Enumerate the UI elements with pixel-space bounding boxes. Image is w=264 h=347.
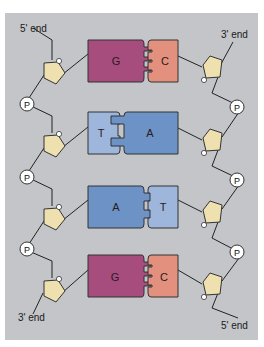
- base-label: C: [161, 55, 169, 67]
- sugar-pentagon-icon: [201, 201, 222, 228]
- base-label: G: [111, 271, 120, 283]
- phosphate-icon: P: [20, 170, 34, 184]
- left-phosphates: P P P: [20, 97, 34, 256]
- sugar-pentagon-icon: [44, 131, 65, 157]
- end-label-bottom-left: 3' end: [18, 312, 45, 323]
- phosphate-label: P: [234, 103, 240, 113]
- end-label-top-left: 5' end: [20, 23, 47, 34]
- sugar-pentagon-icon: [44, 58, 65, 84]
- base-pair-4: G C: [88, 255, 178, 297]
- sugar-pentagon-icon: [201, 129, 222, 156]
- base-pair-3: A T: [88, 186, 178, 228]
- left-sugars: [44, 58, 65, 302]
- guanine-block: [88, 255, 151, 297]
- end-label-bottom-right: 5' end: [221, 320, 248, 331]
- end-label-top-right: 3' end: [221, 29, 248, 40]
- adenine-block: [111, 112, 178, 154]
- sugar-pentagon-icon: [44, 276, 65, 302]
- phosphate-label: P: [24, 173, 30, 183]
- phosphate-icon: P: [230, 245, 244, 259]
- base-pair-2: T A: [88, 112, 178, 154]
- phosphate-label: P: [24, 245, 30, 255]
- base-label: G: [112, 55, 121, 67]
- base-label: C: [160, 271, 168, 283]
- base-label: T: [98, 127, 105, 139]
- sugar-pentagon-icon: [201, 56, 222, 83]
- phosphate-label: P: [24, 100, 30, 110]
- phosphate-label: P: [234, 176, 240, 186]
- phosphate-icon: P: [20, 97, 34, 111]
- phosphate-label: P: [234, 248, 240, 258]
- dna-diagram: P P P P P P G C T: [0, 0, 264, 347]
- phosphate-icon: P: [20, 242, 34, 256]
- phosphate-icon: P: [230, 100, 244, 114]
- base-pair-1: G C: [88, 40, 178, 82]
- adenine-block: [88, 186, 153, 228]
- phosphate-icon: P: [230, 173, 244, 187]
- sugar-pentagon-icon: [44, 204, 65, 230]
- base-label: T: [160, 201, 167, 213]
- base-label: A: [146, 127, 154, 139]
- sugar-pentagon-icon: [201, 273, 222, 300]
- right-phosphates: P P P: [230, 100, 244, 259]
- base-label: A: [112, 201, 120, 213]
